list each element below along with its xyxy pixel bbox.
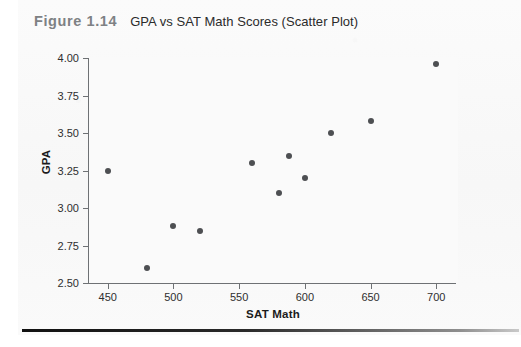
- x-tick-mark: [108, 284, 109, 289]
- x-tick-label: 550: [230, 291, 248, 303]
- data-point: [197, 228, 203, 234]
- y-tick-mark: [83, 96, 88, 97]
- x-tick-mark: [173, 284, 174, 289]
- x-tick-mark: [239, 284, 240, 289]
- y-axis-title: GPA: [40, 150, 52, 175]
- footer-rule: [22, 329, 519, 332]
- data-point: [276, 190, 282, 196]
- figure-caption: Figure 1.14GPA vs SAT Math Scores (Scatt…: [34, 13, 358, 29]
- x-tick-mark: [371, 284, 372, 289]
- figure-root: Figure 1.14GPA vs SAT Math Scores (Scatt…: [0, 0, 521, 347]
- x-tick-label: 600: [296, 291, 314, 303]
- page-title: GPA vs SAT Math Scores (Scatter Plot): [130, 14, 358, 29]
- y-tick-label: 3.00: [58, 202, 79, 214]
- y-tick-mark: [83, 133, 88, 134]
- x-tick-label: 500: [164, 291, 182, 303]
- scatter-plot: 2.502.753.003.253.503.754.00 45050055060…: [88, 58, 458, 284]
- x-tick-mark: [436, 284, 437, 289]
- y-tick-label: 2.75: [58, 240, 79, 252]
- y-axis-line: [88, 58, 89, 283]
- y-tick-label: 3.50: [58, 127, 79, 139]
- x-axis-title: SAT Math: [246, 308, 300, 320]
- data-point: [105, 168, 111, 174]
- y-tick-mark: [83, 246, 88, 247]
- plot-background: [88, 58, 458, 284]
- y-tick-label: 2.50: [58, 277, 79, 289]
- x-tick-label: 700: [427, 291, 445, 303]
- y-tick-mark: [83, 283, 88, 284]
- y-tick-mark: [83, 171, 88, 172]
- data-point: [286, 153, 292, 159]
- y-tick-mark: [83, 58, 88, 59]
- data-point: [368, 118, 374, 124]
- x-tick-mark: [305, 284, 306, 289]
- y-tick-label: 4.00: [58, 52, 79, 64]
- data-point: [302, 175, 308, 181]
- y-tick-label: 3.75: [58, 90, 79, 102]
- y-tick-mark: [83, 208, 88, 209]
- y-tick-label: 3.25: [58, 165, 79, 177]
- x-tick-label: 650: [361, 291, 379, 303]
- figure-number: Figure 1.14: [34, 13, 117, 29]
- x-tick-label: 450: [99, 291, 117, 303]
- x-axis-line: [88, 283, 456, 284]
